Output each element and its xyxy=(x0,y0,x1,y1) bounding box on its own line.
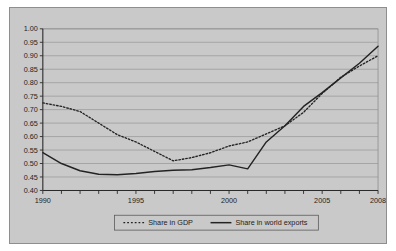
x-tick-label: 1990 xyxy=(35,196,51,205)
legend-label: Share in GDP xyxy=(148,218,193,227)
legend-label: Share in world exports xyxy=(235,218,307,227)
y-tick-label: 0.80 xyxy=(24,78,38,87)
y-tick-label: 0.50 xyxy=(24,159,38,168)
series-line-solid xyxy=(43,46,378,174)
x-tick-label: 2008 xyxy=(370,196,386,205)
gridlines-group xyxy=(43,29,378,191)
y-tick-label: 0.65 xyxy=(24,119,38,128)
y-tick-label: 0.70 xyxy=(24,105,38,114)
y-tick-label: 0.95 xyxy=(24,38,38,47)
series-line-dashed xyxy=(43,56,378,161)
x-tick-label: 2005 xyxy=(314,196,330,205)
y-tick-label: 0.45 xyxy=(24,173,38,182)
y-tick-label: 0.90 xyxy=(24,51,38,60)
x-axis-labels-group: 19901995200020052008 xyxy=(35,196,386,205)
y-tick-label: 0.55 xyxy=(24,146,38,155)
y-tick-label: 0.60 xyxy=(24,132,38,141)
x-tick-label: 1995 xyxy=(128,196,144,205)
y-tick-label: 1.00 xyxy=(24,24,38,33)
line-chart: 0.400.450.500.550.600.650.700.750.800.85… xyxy=(10,8,386,243)
y-axis-labels-group: 0.400.450.500.550.600.650.700.750.800.85… xyxy=(24,24,38,195)
data-series-group xyxy=(43,46,378,174)
y-tick-label: 0.40 xyxy=(24,186,38,195)
chart-legend: Share in GDPShare in world exports xyxy=(114,215,318,230)
y-tick-label: 0.85 xyxy=(24,65,38,74)
x-tick-label: 2000 xyxy=(221,196,237,205)
chart-figure: 0.400.450.500.550.600.650.700.750.800.85… xyxy=(9,7,387,244)
y-tick-label: 0.75 xyxy=(24,92,38,101)
